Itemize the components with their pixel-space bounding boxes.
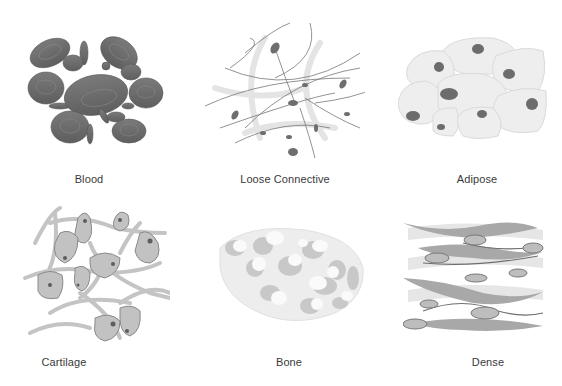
label-loose-connective: Loose Connective <box>240 173 330 185</box>
loose-connective-fibers-icon <box>205 18 365 163</box>
label-cartilage: Cartilage <box>42 356 87 368</box>
chondrocytes-icon <box>20 203 170 343</box>
red-blood-cells-icon <box>20 28 170 153</box>
spongy-bone-icon <box>215 228 365 328</box>
fat-cells-icon <box>398 36 548 141</box>
label-blood: Blood <box>75 173 104 185</box>
label-dense: Dense <box>472 356 504 368</box>
dense-collagen-fibers-icon <box>403 218 548 333</box>
label-bone: Bone <box>276 356 302 368</box>
label-adipose: Adipose <box>457 173 497 185</box>
